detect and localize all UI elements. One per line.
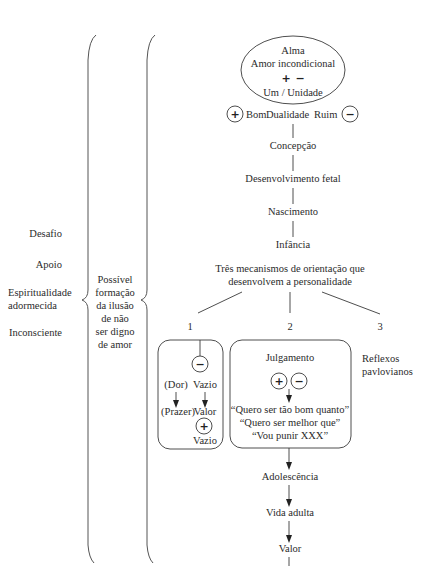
branch-3: [322, 292, 380, 314]
svg-text:ser digno: ser digno: [96, 326, 135, 337]
stage-adulta: Vida adulta: [266, 507, 314, 518]
diagram-canvas: Desafio Apoio Espiritualidade adormecida…: [0, 0, 431, 579]
box1-vazio-top: Vazio: [193, 379, 217, 390]
box2-quote-3: “Vou punir XXX”: [252, 430, 329, 441]
svg-text:de amor: de amor: [98, 339, 133, 350]
plus-icon: +: [274, 375, 283, 388]
label-espiritualidade-2: adormecida: [8, 300, 57, 311]
reflexes-1: Reflexos: [362, 353, 399, 364]
middle-note: Possível formação da ilusão de não ser d…: [95, 274, 135, 350]
soul-amor: Amor incondicional: [251, 58, 335, 69]
mechanism-2: 2: [287, 321, 292, 332]
minus-icon: −: [195, 358, 204, 371]
soul-plus: +: [281, 72, 290, 85]
label-desafio: Desafio: [29, 228, 62, 239]
duality-bad: Ruim: [314, 109, 337, 120]
label-espiritualidade-1: Espiritualidade: [8, 287, 72, 298]
soul-alma: Alma: [281, 45, 305, 56]
duality-label: Dualidade: [266, 109, 309, 120]
stage-infancia: Infância: [276, 239, 311, 250]
box1-vazio-bottom: Vazio: [193, 435, 217, 446]
stage-concepcao: Concepção: [270, 140, 317, 151]
svg-text:de não: de não: [101, 313, 129, 324]
box2-title: Julgamento: [266, 352, 314, 363]
soul-unidade: Um / Unidade: [263, 87, 323, 98]
soul-minus: −: [295, 72, 304, 85]
box1-dor: (Dor): [164, 379, 188, 391]
plus-icon: +: [230, 108, 239, 121]
box2-quote-1: “Quero ser tão bom quanto”: [231, 404, 350, 415]
label-apoio: Apoio: [36, 259, 62, 270]
mechanism-1: 1: [187, 321, 192, 332]
stage-adolescencia: Adolescência: [262, 471, 319, 482]
box1-prazer: (Prazer): [161, 406, 195, 418]
minus-icon: −: [294, 375, 303, 388]
duality-good: Bom: [246, 109, 266, 120]
plus-icon: +: [199, 420, 208, 433]
right-brace: [141, 35, 155, 563]
label-inconsciente: Inconsciente: [9, 327, 62, 338]
stage-fetal: Desenvolvimento fetal: [245, 173, 340, 184]
minus-icon: −: [345, 108, 354, 121]
svg-text:Possível: Possível: [97, 274, 132, 285]
box-mechanism-1: [158, 340, 223, 449]
stage-nascimento: Nascimento: [268, 206, 318, 217]
reflexes-2: pavlovianos: [362, 366, 413, 377]
box1-valor: Valor: [194, 406, 217, 417]
stage-valor: Valor: [279, 543, 302, 554]
mechanism-3: 3: [377, 321, 382, 332]
mechanisms-title-2: desenvolvem a personalidade: [228, 276, 352, 287]
branch-1: [198, 292, 242, 313]
box2-quote-2: “Quero ser melhor que”: [240, 417, 341, 428]
left-brace: [82, 35, 96, 563]
mechanisms-title-1: Três mecanismos de orientação que: [215, 263, 365, 274]
svg-text:formação: formação: [95, 287, 135, 298]
svg-text:da ilusão: da ilusão: [96, 300, 134, 311]
